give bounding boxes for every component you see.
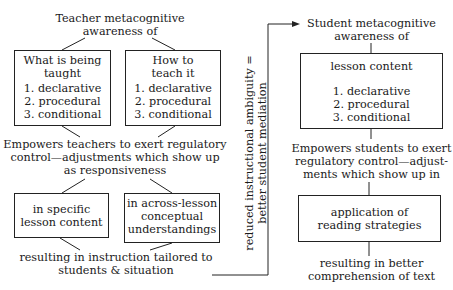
box-how-item-3: 3. conditional — [126, 108, 220, 121]
box-specific-lesson: in specific lesson content — [14, 193, 109, 238]
box-lesson-item-2: 2. procedural — [301, 98, 442, 111]
connector-label-line2: better student mediation — [256, 43, 269, 263]
connector-label: reduced instructional ambiguity = better… — [243, 43, 269, 263]
teacher-empowers-line2: control—adjustments which show up — [0, 151, 230, 164]
box-what-item-1: 1. declarative — [15, 82, 110, 95]
box-how-item-1: 1. declarative — [126, 82, 220, 95]
box-specific-line2: lesson content — [15, 216, 108, 229]
box-application: application of reading strategies — [298, 195, 441, 242]
box-across-line3: understandings — [125, 223, 219, 236]
box-specific-line1: in specific — [15, 203, 108, 216]
box-how-line2: teach it — [126, 67, 220, 80]
teacher-result-line2: students & situation — [0, 264, 232, 277]
teacher-result-line1: resulting in instruction tailored to — [0, 251, 232, 264]
box-how-line1: How to — [126, 54, 220, 67]
student-title-line1: Student metacognitive — [300, 17, 443, 30]
box-what-item-2: 2. procedural — [15, 95, 110, 108]
box-lesson-item-1: 1. declarative — [301, 85, 442, 98]
box-lesson-content: lesson content 1. declarative 2. procedu… — [300, 53, 443, 129]
box-what-line2: taught — [15, 67, 110, 80]
student-empowers-line1: Empowers students to exert — [290, 142, 453, 155]
box-what-line1: What is being — [15, 54, 110, 67]
student-title-line2: awareness of — [300, 30, 443, 43]
box-what-is-taught: What is being taught 1. declarative 2. p… — [14, 50, 111, 126]
student-result-line2: comprehension of text — [290, 270, 453, 283]
box-how-item-2: 2. procedural — [126, 95, 220, 108]
box-application-line1: application of — [299, 206, 440, 219]
box-across-lesson: in across-lesson conceptual understandin… — [124, 193, 220, 243]
box-across-line1: in across-lesson — [125, 197, 219, 210]
box-lesson-item-3: 3. conditional — [301, 111, 442, 124]
box-lesson-heading: lesson content — [301, 60, 442, 73]
teacher-title-line2: awareness of — [40, 25, 200, 38]
teacher-empowers-line3: as responsiveness — [0, 164, 230, 177]
arrow-head-icon — [292, 21, 300, 27]
student-empowers-line3: ments which show up in — [290, 168, 453, 181]
connector-label-line1: reduced instructional ambiguity = — [243, 43, 256, 263]
teacher-empowers-line1: Empowers teachers to exert regulatory — [0, 138, 230, 151]
teacher-title-line1: Teacher metacognitive — [40, 12, 200, 25]
box-what-item-3: 3. conditional — [15, 108, 110, 121]
box-application-line2: reading strategies — [299, 219, 440, 232]
box-across-line2: conceptual — [125, 210, 219, 223]
student-result-line1: resulting in better — [290, 257, 453, 270]
box-how-to-teach: How to teach it 1. declarative 2. proced… — [125, 50, 221, 126]
student-empowers-line2: regulatory control—adjust- — [290, 155, 453, 168]
